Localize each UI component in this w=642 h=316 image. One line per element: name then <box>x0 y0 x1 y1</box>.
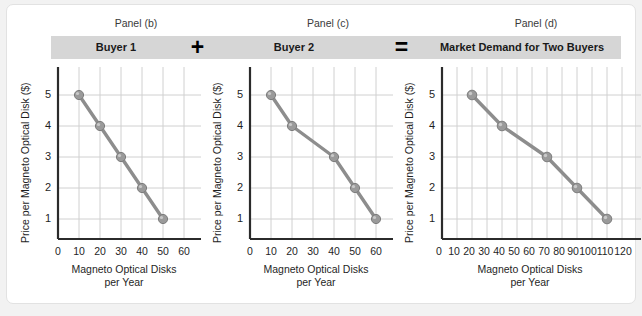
panel-b-xtick-0: 0 <box>48 245 68 257</box>
panel-d-xtick-70: 70 <box>537 245 551 257</box>
market-demand-title: Market Demand for Two Buyers <box>423 36 621 59</box>
panel-d-xtick-20: 20 <box>462 245 476 257</box>
panel-c-x-axis-title-line1: Magneto Optical Disks <box>231 263 401 276</box>
panel-b-ytick-4: 4 <box>35 119 51 131</box>
panel-c-plot <box>247 67 395 257</box>
panel-c-ytick-2: 2 <box>227 181 243 193</box>
panel-c-ytick-1: 1 <box>227 212 243 224</box>
panel-c-ytick-4: 4 <box>227 119 243 131</box>
panel-d-ytick-2: 2 <box>419 181 435 193</box>
buyer1-title: Buyer 1 <box>51 36 181 59</box>
panel-c-xtick-10: 10 <box>261 245 281 257</box>
panel-b-xtick-20: 20 <box>90 245 110 257</box>
panel-d-x-axis-title-line2: per Year <box>445 276 615 289</box>
panel-d-x-axis-title-line1: Magneto Optical Disks <box>445 263 615 276</box>
panel-b-caption: Panel (b) <box>51 17 221 29</box>
panel-d: Price per Magneto Optical Disk ($) <box>405 67 637 301</box>
panel-d-xtick-0: 0 <box>432 245 446 257</box>
panel-c-xtick-0: 0 <box>240 245 260 257</box>
panel-d-xtick-80: 80 <box>552 245 566 257</box>
panel-c-xtick-40: 40 <box>324 245 344 257</box>
panel-c: Price per Magneto Optical Disk ($) <box>213 67 393 301</box>
panel-c-xtick-30: 30 <box>303 245 323 257</box>
panel-c-ytick-3: 3 <box>227 150 243 162</box>
panel-b-xtick-10: 10 <box>69 245 89 257</box>
panel-b-xtick-40: 40 <box>132 245 152 257</box>
panel-d-xtick-10: 10 <box>447 245 461 257</box>
panel-b-ytick-1: 1 <box>35 212 51 224</box>
panel-d-ytick-4: 4 <box>419 119 435 131</box>
panel-b-xtick-60: 60 <box>174 245 194 257</box>
figure-container: Panel (b) Panel (c) Panel (d) Buyer 1 + … <box>6 4 636 304</box>
panel-c-xtick-60: 60 <box>366 245 386 257</box>
panel-c-ytick-5: 5 <box>227 88 243 100</box>
panel-b-xtick-30: 30 <box>111 245 131 257</box>
panel-d-caption: Panel (d) <box>451 17 621 29</box>
panel-d-xtick-110: 110 <box>596 245 614 257</box>
panel-b: Price per Magneto Optical Disk ($) <box>21 67 201 301</box>
panel-d-xtick-120: 120 <box>614 245 632 257</box>
panel-d-xtick-50: 50 <box>507 245 521 257</box>
panel-b-ytick-3: 3 <box>35 150 51 162</box>
panel-d-ytick-1: 1 <box>419 212 435 224</box>
panel-d-xtick-40: 40 <box>492 245 506 257</box>
panel-b-ytick-2: 2 <box>35 181 51 193</box>
panel-c-caption: Panel (c) <box>243 17 413 29</box>
panel-b-xtick-50: 50 <box>153 245 173 257</box>
panel-b-ytick-5: 5 <box>35 88 51 100</box>
panel-d-y-axis-title: Price per Magneto Optical Disk ($) <box>403 75 415 243</box>
panel-b-y-axis-title: Price per Magneto Optical Disk ($) <box>19 75 31 243</box>
panel-d-xtick-60: 60 <box>522 245 536 257</box>
buyer2-title: Buyer 2 <box>219 36 369 59</box>
panel-c-x-axis-title-line2: per Year <box>231 276 401 289</box>
panel-b-x-axis-title-line2: per Year <box>39 276 209 289</box>
panel-d-xtick-30: 30 <box>477 245 491 257</box>
plus-operator-icon: + <box>179 36 215 59</box>
panel-d-xtick-100: 100 <box>579 245 597 257</box>
panel-d-ytick-3: 3 <box>419 150 435 162</box>
panel-b-plot <box>55 67 203 257</box>
equals-operator-icon: = <box>383 36 419 59</box>
panel-b-x-axis-title-line1: Magneto Optical Disks <box>39 263 209 276</box>
panel-c-xtick-20: 20 <box>282 245 302 257</box>
panel-c-xtick-50: 50 <box>345 245 365 257</box>
panel-d-plot <box>439 67 642 257</box>
panel-d-xtick-90: 90 <box>566 245 580 257</box>
panel-d-ytick-5: 5 <box>419 88 435 100</box>
panel-c-y-axis-title: Price per Magneto Optical Disk ($) <box>211 75 223 243</box>
